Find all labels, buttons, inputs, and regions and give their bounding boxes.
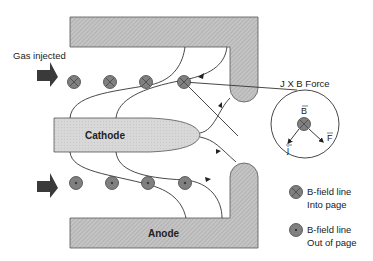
top-electrode: [70, 17, 258, 102]
vec-j-label: j: [286, 145, 289, 155]
jxb-force-label: J X B Force: [280, 78, 330, 89]
gas-injected-label: Gas injected: [13, 50, 66, 61]
legend-into-line1: B-field line: [307, 186, 351, 197]
vec-f-label: F: [327, 133, 333, 143]
cathode-label: Cathode: [85, 130, 125, 141]
legend-into-line2: Into page: [307, 199, 347, 210]
legend: B-field line Into page B-field line Out …: [290, 186, 357, 249]
cathode-electrode: [54, 118, 200, 152]
gas-inlet-arrow-upper: [37, 62, 58, 87]
b-field-out-of-page-markers: [70, 177, 192, 190]
anode-label: Anode: [148, 228, 180, 239]
vec-b-label: B: [301, 106, 307, 116]
legend-out-line2: Out of page: [307, 237, 357, 248]
gas-inlet-arrow-lower: [37, 173, 58, 198]
diagram-canvas: Gas injected Cathode Anode J X B Force B…: [0, 0, 373, 261]
legend-out-line1: B-field line: [307, 224, 351, 235]
